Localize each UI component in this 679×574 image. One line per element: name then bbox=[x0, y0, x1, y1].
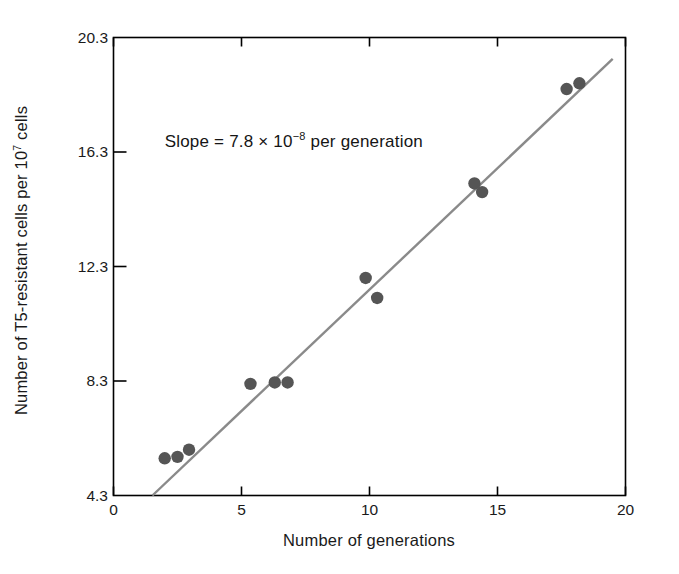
slope-annotation-prefix: Slope = 7.8 × 10 bbox=[165, 132, 293, 151]
x-tick-label: 20 bbox=[606, 501, 646, 519]
x-tick-label: 0 bbox=[94, 501, 134, 519]
data-point bbox=[269, 376, 281, 388]
data-point bbox=[244, 378, 256, 390]
x-axis-tick-labels: 05101520 bbox=[0, 501, 679, 527]
data-point bbox=[560, 83, 572, 95]
plot-area bbox=[0, 0, 679, 574]
slope-annotation-suffix: per generation bbox=[306, 132, 423, 151]
chart-figure: Number of T5-resistant cells per 107 cel… bbox=[0, 0, 679, 574]
data-point bbox=[371, 292, 383, 304]
data-point bbox=[281, 376, 293, 388]
axis-frame bbox=[114, 38, 626, 496]
tick-marks bbox=[114, 38, 626, 496]
slope-annotation: Slope = 7.8 × 10−8 per generation bbox=[165, 132, 423, 152]
data-point bbox=[171, 451, 183, 463]
data-point bbox=[159, 452, 171, 464]
x-tick-label: 15 bbox=[478, 501, 518, 519]
axis-frame-rect bbox=[114, 38, 626, 496]
x-axis-title: Number of generations bbox=[113, 531, 625, 550]
data-point bbox=[476, 186, 488, 198]
data-point bbox=[359, 272, 371, 284]
x-tick-label: 5 bbox=[222, 501, 262, 519]
data-point bbox=[183, 444, 195, 456]
slope-annotation-exponent: −8 bbox=[293, 131, 306, 143]
x-tick-label: 10 bbox=[350, 501, 390, 519]
regression-line bbox=[152, 59, 612, 496]
data-point bbox=[573, 77, 585, 89]
